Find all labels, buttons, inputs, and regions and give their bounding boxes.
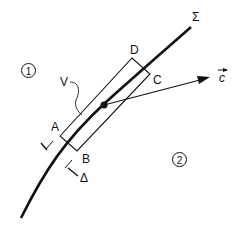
diagram-lines xyxy=(0,0,242,231)
label-sigma: Σ xyxy=(192,11,199,23)
region-1-marker: 1 xyxy=(21,63,36,78)
delta-tick-lower xyxy=(65,160,72,168)
region-2-marker: 2 xyxy=(172,152,187,167)
delta-tick-upper-end xyxy=(41,143,47,150)
interface-control-volume-diagram: Σ D C A B V Δ c 1 2 xyxy=(0,0,242,231)
label-vector-c: c xyxy=(219,72,225,84)
label-c: C xyxy=(153,74,162,86)
label-v: V xyxy=(60,76,68,88)
label-d: D xyxy=(130,44,139,56)
interface-surface-curve xyxy=(21,27,191,218)
delta-tick-upper xyxy=(46,141,53,149)
v-leader-line xyxy=(70,82,82,115)
arrowhead-icon xyxy=(197,76,210,84)
label-delta: Δ xyxy=(80,172,88,184)
label-a: A xyxy=(51,121,59,133)
delta-tick-lower-end xyxy=(68,168,78,176)
label-b: B xyxy=(82,153,90,165)
